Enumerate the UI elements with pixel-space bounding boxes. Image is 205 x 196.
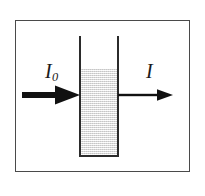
- transmitted-intensity-symbol: I: [146, 60, 153, 82]
- incident-intensity-symbol: I: [45, 60, 52, 82]
- incident-intensity-subscript: 0: [52, 70, 58, 84]
- transmitted-beam-arrow: [118, 86, 174, 104]
- incident-intensity-label: I0: [45, 61, 58, 81]
- figure-root: I0 I: [0, 0, 205, 196]
- incident-beam-arrow: [22, 84, 82, 106]
- transmitted-intensity-label: I: [146, 61, 153, 81]
- sample-solution-fill: [81, 69, 117, 155]
